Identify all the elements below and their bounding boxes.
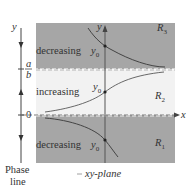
behavior-label-r3: decreasing — [36, 46, 81, 57]
y-axis-label: y — [97, 22, 102, 33]
xy-plane-caption: xy-plane — [85, 169, 121, 180]
behavior-label-r2: increasing — [36, 87, 79, 98]
phase-mark-zero: 0 — [26, 110, 31, 121]
region-label-r1: R1 — [155, 138, 165, 151]
phase-line-caption-1: Phase — [5, 165, 30, 176]
y0-label-r1: y0 — [91, 140, 99, 153]
x-axis-label: x — [181, 110, 186, 121]
y0-point-r3 — [103, 44, 106, 47]
y0-label-r3: y0 — [91, 46, 99, 59]
phase-arrow-up-icon — [19, 89, 24, 95]
phase-line-y-label: y — [12, 22, 17, 33]
x-axis-arrow-icon — [174, 113, 180, 118]
y0-point-r1 — [103, 138, 106, 141]
phase-line-caption-2: line — [10, 177, 26, 188]
y0-label-r2: y0 — [93, 82, 101, 95]
region-label-r2: R2 — [155, 91, 165, 104]
y0-point-r2 — [103, 90, 106, 93]
phase-mark-b: b — [26, 70, 31, 81]
phase-arrow-down-icon — [19, 135, 24, 141]
phase-arrow-down-icon — [19, 42, 24, 48]
phase-mark-a: a — [26, 59, 31, 70]
region-label-r3: R3 — [157, 23, 167, 36]
behavior-label-r1: decreasing — [36, 140, 81, 151]
